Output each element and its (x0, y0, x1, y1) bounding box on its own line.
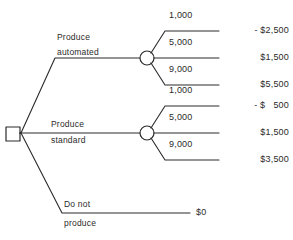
quantity-label-standard-3: 9,000 (169, 140, 193, 149)
branch-label-produce-standard-line1: Produce (51, 120, 84, 129)
tree-lines-svg (0, 0, 293, 240)
payoff-label-do-not-produce: $0 (196, 208, 206, 217)
branch-label-produce-automated-line2: automated (57, 48, 99, 57)
branch-label-produce-standard-line2: standard (51, 136, 86, 145)
payoff-label-automated-3: $5,500 (215, 80, 289, 89)
chance-node-standard-circle (140, 126, 154, 140)
quantity-label-automated-1: 1,000 (169, 11, 193, 20)
payoff-label-standard-2: $1,500 (215, 128, 289, 137)
branch-label-do-not-produce-line2: produce (64, 219, 96, 228)
quantity-label-standard-1: 1,000 (169, 86, 193, 95)
chance-node-automated-circle (140, 51, 154, 65)
payoff-label-automated-1: - $2,500 (215, 26, 289, 35)
quantity-label-automated-2: 5,000 (169, 38, 193, 47)
payoff-label-automated-2: $1,500 (215, 53, 289, 62)
decision-tree-diagram: Produce automated Produce standard Do no… (0, 0, 293, 240)
payoff-label-standard-1: - $ 500 (215, 101, 289, 110)
quantity-label-automated-3: 9,000 (169, 65, 193, 74)
decision-node-square (6, 127, 20, 141)
quantity-label-standard-2: 5,000 (169, 113, 193, 122)
branch-label-produce-automated-line1: Produce (57, 33, 90, 42)
branch-label-do-not-produce-line1: Do not (64, 200, 90, 209)
payoff-label-standard-3: $3,500 (215, 155, 289, 164)
branch-line-do-not-produce (20, 133, 190, 213)
